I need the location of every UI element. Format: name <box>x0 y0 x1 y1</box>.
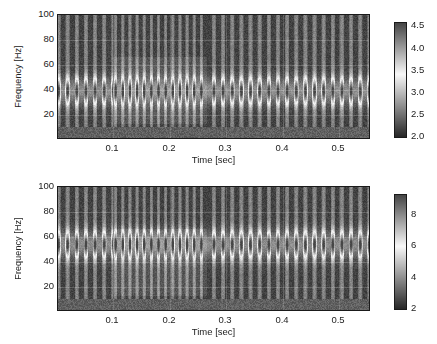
gridline <box>58 262 369 263</box>
spectrogram-panel-top: 100 80 60 40 20 Frequency [Hz] 0.1 0.2 0… <box>0 0 437 172</box>
colorbar-tick-label: 8 <box>411 209 416 219</box>
y-axis-label: Frequency [Hz] <box>11 14 25 139</box>
y-tick-label: 40 <box>28 84 54 94</box>
x-tick-label: 0.2 <box>152 142 186 153</box>
x-axis-label: Time [sec] <box>57 154 370 165</box>
x-tick-label: 0.3 <box>208 142 242 153</box>
gridline <box>113 15 114 138</box>
x-tick-label: 0.5 <box>321 142 355 153</box>
spectrogram-image-bottom <box>57 186 370 311</box>
colorbar-ticks-top: 4.5 4.0 3.5 3.0 2.5 2.0 <box>409 0 437 172</box>
gridline <box>226 15 227 138</box>
gridline <box>226 187 227 310</box>
gridline <box>58 115 369 116</box>
gridline <box>58 287 369 288</box>
y-tick-label: 80 <box>28 206 54 216</box>
y-tick-label: 100 <box>28 9 54 19</box>
colorbar-top <box>394 22 407 138</box>
spectrogram-pixels <box>58 187 369 310</box>
spectrogram-panel-bottom: 100 80 60 40 20 Frequency [Hz] 0.1 0.2 0… <box>0 172 437 344</box>
y-tick-label: 20 <box>28 109 54 119</box>
colorbar-tick-label: 3.5 <box>411 65 424 75</box>
gridline <box>58 90 369 91</box>
gridline <box>283 187 284 310</box>
colorbar-tick-label: 2.0 <box>411 131 424 141</box>
x-tick-label: 0.3 <box>208 314 242 325</box>
colorbar-bottom <box>394 194 407 310</box>
y-axis-ticks-bottom: 100 80 60 40 20 <box>24 172 54 344</box>
x-tick-label: 0.2 <box>152 314 186 325</box>
y-tick-label: 80 <box>28 34 54 44</box>
y-axis-ticks-top: 100 80 60 40 20 <box>24 0 54 172</box>
y-tick-label: 40 <box>28 256 54 266</box>
colorbar-tick-label: 2.5 <box>411 109 424 119</box>
y-tick-label: 20 <box>28 281 54 291</box>
x-tick-label: 0.1 <box>95 314 129 325</box>
y-tick-label: 60 <box>28 231 54 241</box>
colorbar-tick-label: 2 <box>411 303 416 313</box>
gridline <box>58 212 369 213</box>
x-tick-label: 0.4 <box>265 142 299 153</box>
y-tick-label: 60 <box>28 59 54 69</box>
spectrogram-image-top <box>57 14 370 139</box>
gridline <box>58 40 369 41</box>
gridline <box>339 15 340 138</box>
gridline <box>283 15 284 138</box>
gridline <box>58 65 369 66</box>
gridline <box>170 15 171 138</box>
colorbar-tick-label: 4.0 <box>411 43 424 53</box>
colorbar-tick-label: 6 <box>411 240 416 250</box>
x-tick-label: 0.4 <box>265 314 299 325</box>
gridline <box>113 187 114 310</box>
y-tick-label: 100 <box>28 181 54 191</box>
colorbar-ticks-bottom: 8 6 4 2 <box>409 172 437 344</box>
gridline <box>339 187 340 310</box>
spectrogram-pixels <box>58 15 369 138</box>
gridline <box>170 187 171 310</box>
colorbar-tick-label: 3.0 <box>411 87 424 97</box>
colorbar-tick-label: 4.5 <box>411 20 424 30</box>
x-tick-label: 0.5 <box>321 314 355 325</box>
colorbar-tick-label: 4 <box>411 272 416 282</box>
spectrogram-figure: 100 80 60 40 20 Frequency [Hz] 0.1 0.2 0… <box>0 0 437 344</box>
y-axis-label: Frequency [Hz] <box>11 186 25 311</box>
x-axis-label: Time [sec] <box>57 326 370 337</box>
x-tick-label: 0.1 <box>95 142 129 153</box>
gridline <box>58 237 369 238</box>
